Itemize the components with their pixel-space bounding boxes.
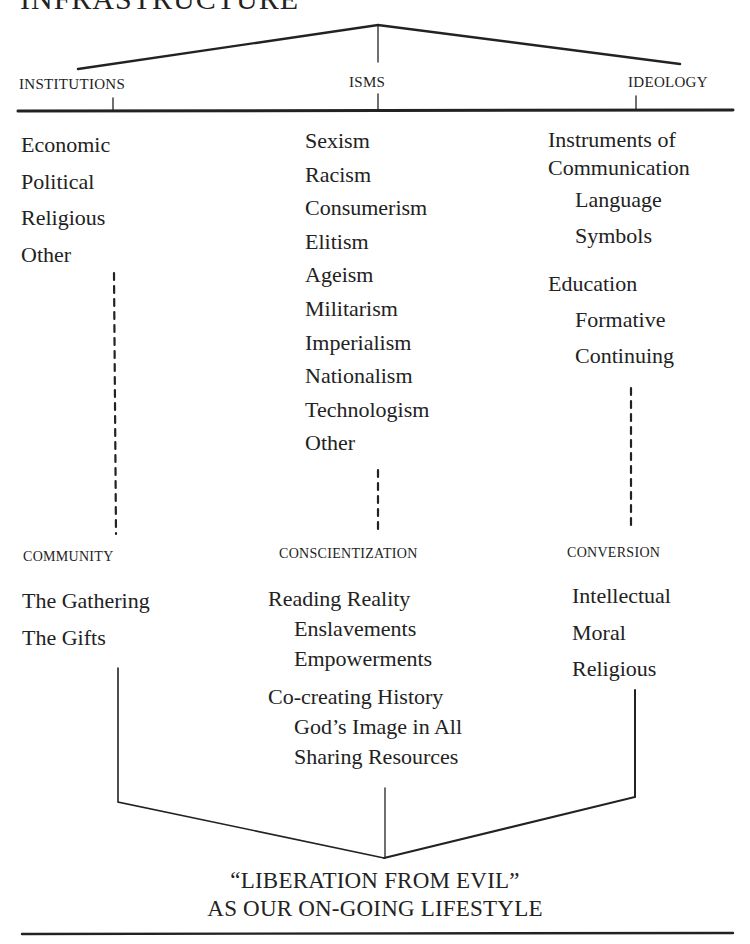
conscientization-list: Reading Reality Enslavements Empowerment… (268, 584, 462, 772)
list-subitem: Empowerments (268, 644, 462, 674)
list-item: Elitism (305, 225, 429, 259)
list-item: Moral (572, 615, 671, 652)
list-item: Other (21, 237, 110, 274)
ideology-group-heading: Communication (548, 154, 690, 182)
list-item: Militarism (305, 292, 429, 326)
list-subitem: God’s Image in All (268, 712, 462, 742)
header-conversion: CONVERSION (567, 545, 660, 561)
ideology-group-heading: Instruments of (548, 126, 690, 154)
list-subitem: Language (548, 182, 690, 218)
list-item: Sexism (305, 124, 429, 158)
header-institutions: INSTITUTIONS (19, 76, 125, 93)
footer-rule (22, 933, 733, 934)
header-rule (18, 110, 733, 111)
footer-line-1: “LIBERATION FROM EVIL” (0, 868, 750, 894)
conscientization-group-heading: Co-creating History (268, 682, 462, 712)
header-ideology: IDEOLOGY (628, 74, 708, 91)
list-subitem: Symbols (548, 218, 690, 254)
list-item: Other (305, 426, 429, 460)
list-subitem: Continuing (548, 338, 690, 374)
community-list: The Gathering The Gifts (22, 583, 150, 656)
institutions-list: Economic Political Religious Other (21, 127, 110, 273)
roof-line (78, 25, 680, 69)
conversion-list: Intellectual Moral Religious (572, 578, 671, 688)
list-item: The Gathering (22, 583, 150, 620)
header-isms: ISMS (349, 74, 385, 91)
list-subitem: Sharing Resources (268, 742, 462, 772)
footer-line-2: AS OUR ON-GOING LIFESTYLE (0, 896, 750, 922)
list-item: Religious (572, 651, 671, 688)
header-conscientization: CONSCIENTIZATION (279, 546, 418, 562)
header-community: COMMUNITY (23, 549, 114, 565)
list-item: Intellectual (572, 578, 671, 615)
list-item: Consumerism (305, 191, 429, 225)
list-item: Economic (21, 127, 110, 164)
dashed-institutions (114, 273, 116, 534)
list-item: Nationalism (305, 359, 429, 393)
list-item: Racism (305, 158, 429, 192)
ideology-list: Instruments of Communication Language Sy… (548, 126, 690, 374)
conscientization-group-heading: Reading Reality (268, 584, 462, 614)
list-item: Religious (21, 200, 110, 237)
list-item: The Gifts (22, 620, 150, 657)
isms-list: Sexism Racism Consumerism Elitism Ageism… (305, 124, 429, 460)
list-item: Technologism (305, 393, 429, 427)
list-item: Political (21, 164, 110, 201)
list-subitem: Formative (548, 302, 690, 338)
ideology-group-heading: Education (548, 266, 690, 302)
list-subitem: Enslavements (268, 614, 462, 644)
list-item: Ageism (305, 258, 429, 292)
list-item: Imperialism (305, 326, 429, 360)
